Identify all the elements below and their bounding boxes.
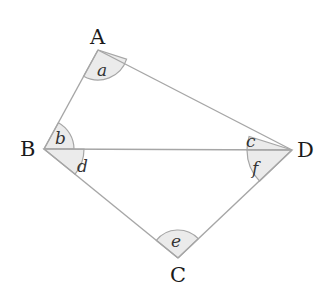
edge-cd	[178, 150, 292, 258]
vertex-label-b: B	[20, 137, 35, 161]
vertex-label-c: C	[170, 263, 186, 287]
angle-label-e: e	[171, 231, 181, 251]
angle-label-c: c	[246, 131, 256, 151]
angle-label-b: b	[55, 128, 66, 148]
vertex-label-a: A	[89, 25, 106, 49]
angle-label-d: d	[77, 156, 88, 176]
edge-bc	[44, 149, 178, 258]
edge-ad	[98, 50, 292, 150]
vertex-label-d: D	[297, 138, 314, 162]
edge-ab	[44, 50, 98, 149]
quadrilateral-diagram: A B C D a b d c f e	[0, 0, 331, 301]
angle-label-a: a	[97, 60, 107, 80]
